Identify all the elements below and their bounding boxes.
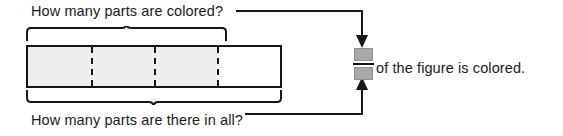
fraction-denominator-blank[interactable] xyxy=(354,67,373,80)
colored-to-numerator-connector xyxy=(236,6,376,52)
figure-divider-2 xyxy=(154,47,156,86)
fraction-numerator-blank[interactable] xyxy=(354,48,373,61)
figure-part-1 xyxy=(28,47,91,86)
figure-part-2 xyxy=(91,47,154,86)
figure-divider-1 xyxy=(91,47,93,86)
figure-divider-3 xyxy=(217,47,219,86)
result-sentence: of the figure is colored. xyxy=(376,60,525,76)
colored-parts-question-label: How many parts are colored? xyxy=(31,3,223,19)
fraction-answer xyxy=(353,48,373,80)
total-parts-question-label: How many parts are there in all? xyxy=(31,112,243,128)
fraction-worksheet: How many parts are colored? How many par… xyxy=(0,0,563,136)
top-brace xyxy=(25,26,230,42)
arrow-down-icon xyxy=(356,35,368,48)
figure-part-3 xyxy=(154,47,217,86)
fraction-bar xyxy=(353,63,374,65)
